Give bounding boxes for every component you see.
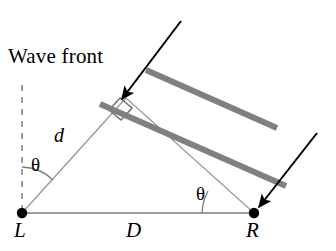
station-point-left bbox=[17, 208, 27, 218]
station-point-right bbox=[249, 208, 259, 218]
right-station-label: R bbox=[246, 220, 259, 241]
wavefront-bar-far bbox=[146, 70, 277, 128]
path-difference-label: d bbox=[54, 125, 64, 145]
wave-front-label: Wave front bbox=[8, 46, 103, 67]
wavefront-direction-ray bbox=[126, 98, 254, 213]
angle-label-left: θ bbox=[31, 155, 40, 174]
wave-front-diagram: Wave front d D L R θ θ bbox=[0, 0, 336, 251]
propagation-arrow-left bbox=[122, 21, 181, 99]
angle-label-right: θ bbox=[196, 184, 205, 203]
baseline-label: D bbox=[126, 220, 141, 241]
diagram-canvas bbox=[0, 0, 336, 251]
propagation-arrow-right bbox=[259, 133, 317, 207]
left-station-label: L bbox=[14, 220, 26, 241]
wavefront-bar-near bbox=[100, 104, 286, 186]
